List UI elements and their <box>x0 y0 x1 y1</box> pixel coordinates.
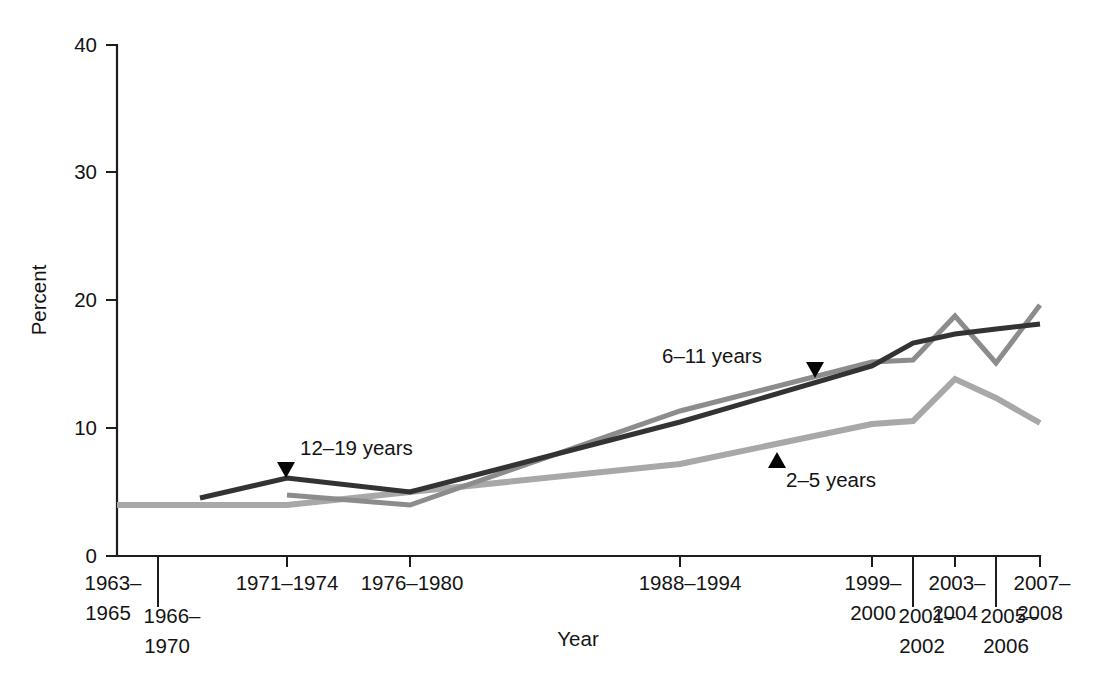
x-tick-label-2003-2004-line1: 2003– <box>928 571 986 594</box>
y-tick-label-0: 0 <box>86 544 97 567</box>
x-tick-label-1988-1994: 1988–1994 <box>639 571 742 594</box>
x-tick-label-1999-2000-line1: 1999– <box>844 571 902 594</box>
x-tick-label-2001-2002-line2: 2002 <box>899 634 945 657</box>
x-tick-label-2007-2008-line2: 2008 <box>1017 601 1063 624</box>
x-tick-label-1966-1970-line1: 1966– <box>143 604 201 627</box>
y-tick-label-20: 20 <box>74 288 97 311</box>
series-label-6-11-years: 6–11 years <box>662 344 762 367</box>
line-chart-canvas: 0 10 20 30 40 Percent <box>0 0 1108 692</box>
x-axis-ticks <box>158 556 1040 567</box>
x-tick-label-1963-1965-line1: 1963– <box>84 571 142 594</box>
chart-figure: 0 10 20 30 40 Percent <box>0 0 1108 692</box>
x-tick-label-1971-1974: 1971–1974 <box>236 571 339 594</box>
triangle-down-icon-12-19-years <box>277 462 295 478</box>
y-tick-label-40: 40 <box>74 33 97 56</box>
x-tick-label-2003-2004-line2: 2004 <box>932 601 978 624</box>
x-axis-title: Year <box>557 627 599 650</box>
y-tick-label-30: 30 <box>74 160 97 183</box>
x-tick-label-1963-1965-line2: 1965 <box>85 601 131 624</box>
triangle-up-icon-2-5-years <box>768 452 786 468</box>
x-tick-label-1966-1970-line2: 1970 <box>144 634 190 657</box>
x-tick-label-1976-1980: 1976–1980 <box>361 571 464 594</box>
y-tick-label-10: 10 <box>74 416 97 439</box>
x-tick-label-1999-2000-line2: 2000 <box>850 601 896 624</box>
series-label-12-19-years: 12–19 years <box>300 436 413 459</box>
series-label-2-5-years: 2–5 years <box>786 468 876 491</box>
x-tick-label-2007-2008-line1: 2007– <box>1013 571 1071 594</box>
y-axis-ticks <box>106 45 117 556</box>
x-tick-label-2005-2006-line2: 2006 <box>983 634 1029 657</box>
y-axis-title: Percent <box>27 264 50 335</box>
